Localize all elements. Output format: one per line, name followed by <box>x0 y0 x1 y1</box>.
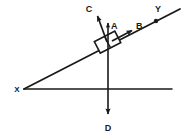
label-a: A <box>111 21 118 31</box>
label-c: C <box>86 4 93 14</box>
label-d: D <box>105 123 112 133</box>
free-body-diagram: C A B Y X D <box>0 0 186 137</box>
label-y: Y <box>155 4 161 14</box>
diagram-canvas: C A B Y X D <box>0 0 186 137</box>
label-x: X <box>14 85 20 94</box>
incline-point-marker <box>154 19 158 23</box>
label-b: B <box>136 21 143 31</box>
